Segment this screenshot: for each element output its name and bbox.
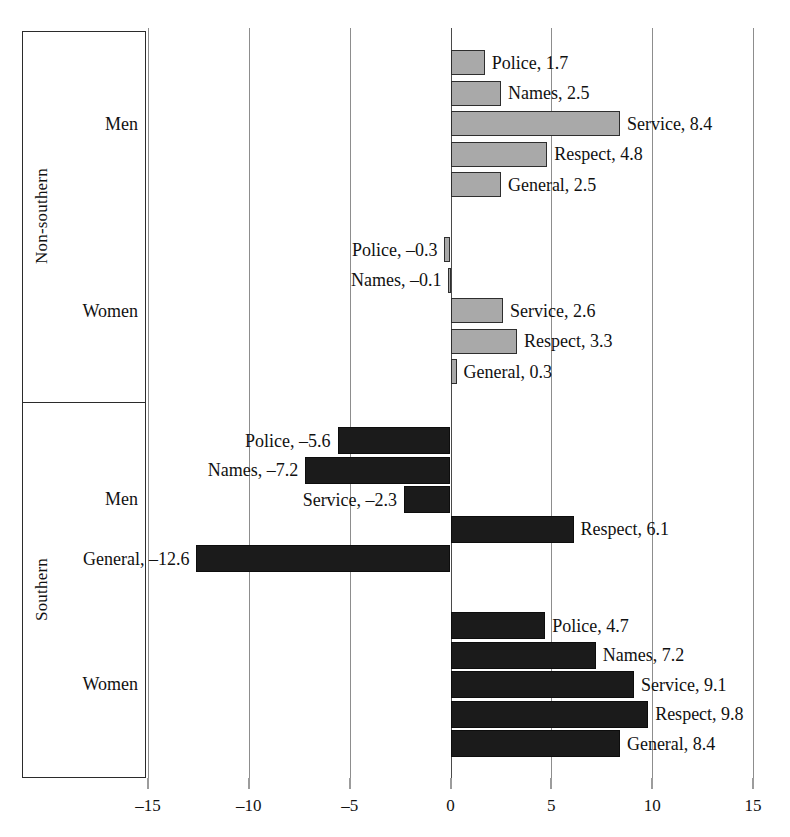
gridline-neg5 xyxy=(350,28,351,778)
bar-value-label: Police, 4.7 xyxy=(552,617,629,635)
bar xyxy=(451,111,620,136)
x-tick-label: –10 xyxy=(236,796,262,816)
bar-value-label: Service, 2.6 xyxy=(510,302,595,320)
bar-chart: Non-southern Southern Men Women Men Wome… xyxy=(0,0,790,837)
x-tick-mark xyxy=(652,778,653,789)
bar-value-label: Respect, 4.8 xyxy=(554,145,642,163)
x-tick-label: 0 xyxy=(446,796,455,816)
x-tick-mark xyxy=(248,778,249,789)
bar xyxy=(444,237,450,262)
region-label-southern: Southern xyxy=(32,402,52,778)
x-tick-mark xyxy=(349,778,350,789)
x-tick-label: –5 xyxy=(341,796,358,816)
bar xyxy=(451,298,503,323)
bar xyxy=(451,701,649,728)
bar-value-label: Service, –2.3 xyxy=(303,491,397,509)
bar xyxy=(451,516,574,543)
bar-value-label: General, 0.3 xyxy=(464,363,552,381)
bar xyxy=(196,545,450,572)
bar-value-label: Respect, 9.8 xyxy=(655,705,743,723)
x-tick-mark xyxy=(450,778,451,789)
bar xyxy=(451,329,518,354)
bar xyxy=(404,486,450,513)
x-tick-mark xyxy=(753,778,754,789)
plot-area: Police, 1.7Names, 2.5Service, 8.4Respect… xyxy=(148,28,753,778)
gridline-neg10 xyxy=(249,28,250,778)
sex-label-southern-women: Women xyxy=(82,674,138,695)
bar-value-label: Police, –0.3 xyxy=(352,241,438,259)
bar-value-label: Respect, 6.1 xyxy=(581,520,669,538)
bar-value-label: General, 8.4 xyxy=(627,735,715,753)
bar-value-label: Police, –5.6 xyxy=(245,432,331,450)
bar-value-label: Names, –0.1 xyxy=(351,271,441,289)
bar xyxy=(451,142,548,167)
bar xyxy=(451,50,485,75)
bar xyxy=(451,81,501,106)
x-tick-label: 10 xyxy=(644,796,661,816)
x-tick-label: 5 xyxy=(547,796,556,816)
bar xyxy=(451,642,596,669)
bar-value-label: Names, 7.2 xyxy=(603,646,684,664)
bar-value-label: Service, 8.4 xyxy=(627,115,712,133)
bar xyxy=(448,268,451,293)
bar-value-label: Service, 9.1 xyxy=(641,676,726,694)
region-label-non-southern: Non-southern xyxy=(32,31,52,402)
bar-value-label: Police, 1.7 xyxy=(492,54,569,72)
x-tick-mark xyxy=(551,778,552,789)
x-tick-mark xyxy=(148,778,149,789)
bar xyxy=(451,612,546,639)
gridline-neg15 xyxy=(148,28,149,778)
sex-label-nonsouthern-men: Men xyxy=(105,114,138,135)
sex-label-nonsouthern-women: Women xyxy=(82,301,138,322)
sex-label-southern-men: Men xyxy=(105,489,138,510)
gridline-10 xyxy=(652,28,653,778)
bar xyxy=(451,359,457,384)
bar-value-label: Respect, 3.3 xyxy=(524,332,612,350)
bar-value-label: Names, 2.5 xyxy=(508,84,589,102)
bar-value-label: Names, –7.2 xyxy=(208,461,298,479)
x-tick-label: –15 xyxy=(135,796,161,816)
bar xyxy=(451,671,635,698)
x-tick-label: 15 xyxy=(745,796,762,816)
bar xyxy=(305,457,450,484)
bar xyxy=(451,172,501,197)
gridline-15 xyxy=(753,28,754,778)
bar-value-label: General, –12.6 xyxy=(83,550,189,568)
bar xyxy=(451,730,620,757)
bar-value-label: General, 2.5 xyxy=(508,176,596,194)
bar xyxy=(338,427,451,454)
